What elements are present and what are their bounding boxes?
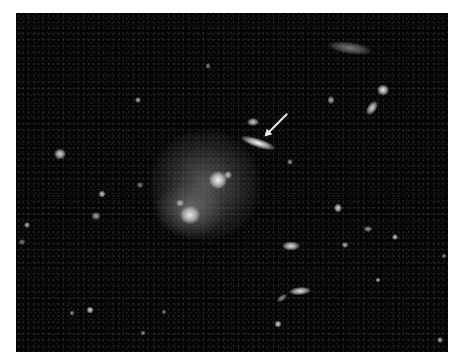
bottom-dot-2 — [87, 307, 94, 314]
mid-ellipse — [282, 242, 300, 251]
mid-right-dot — [334, 204, 342, 213]
right-small-1 — [364, 226, 373, 232]
lower-knot — [176, 200, 184, 207]
upper-dot — [287, 159, 293, 165]
right-edge-dot — [442, 254, 447, 259]
right-small-3 — [376, 278, 381, 283]
galaxy-above-arrow — [247, 118, 259, 126]
bottom-dot-3 — [70, 311, 75, 316]
left-small-3 — [92, 212, 101, 220]
tr-small — [328, 96, 335, 104]
left-galaxy — [54, 149, 66, 160]
astronomical-image — [16, 13, 448, 352]
bottom-dot-1 — [275, 321, 282, 328]
bottom-dot-4 — [141, 331, 146, 336]
mid-right-dot-2 — [342, 242, 349, 248]
right-small-2 — [392, 234, 398, 240]
bottom-dot-5 — [162, 310, 167, 315]
lower-core — [180, 206, 200, 224]
left-small-2 — [99, 191, 106, 198]
bright-tr-1 — [377, 85, 389, 96]
bottom-right-dot — [437, 337, 443, 343]
left-small-4 — [24, 222, 30, 228]
central-knot — [224, 171, 232, 179]
top-mid-dot — [206, 63, 211, 69]
left-small-6 — [137, 182, 144, 188]
left-small-1 — [135, 97, 141, 103]
left-small-5 — [19, 239, 26, 245]
